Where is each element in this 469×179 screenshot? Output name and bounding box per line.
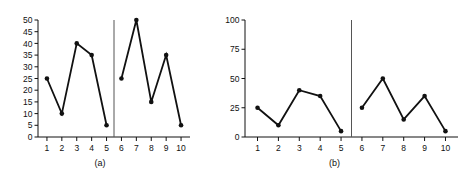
x-tick-label-b-5: 5 [339, 143, 344, 153]
x-tick-label-b-8: 8 [401, 143, 406, 153]
data-point-a-x1 [45, 76, 50, 81]
series-line-b-segment-2 [362, 79, 446, 132]
figure-container: 0510152025303540455012345678910 (a) 0255… [0, 0, 469, 179]
data-point-b-x10 [443, 129, 448, 134]
x-tick-label-b-10: 10 [441, 143, 451, 153]
x-tick-label-b-7: 7 [380, 143, 385, 153]
y-tick-label-a-50: 50 [23, 15, 33, 25]
x-tick-label-a-9: 9 [164, 143, 169, 153]
y-tick-label-a-5: 5 [28, 120, 33, 130]
data-point-b-x6 [360, 105, 365, 110]
x-tick-label-a-3: 3 [74, 143, 79, 153]
y-tick-label-b-25: 25 [230, 103, 240, 113]
data-point-a-x8 [149, 100, 154, 105]
x-tick-label-b-4: 4 [318, 143, 323, 153]
y-tick-label-b-100: 100 [225, 15, 239, 25]
panel-caption-a: (a) [0, 158, 200, 168]
x-tick-label-a-1: 1 [45, 143, 50, 153]
y-tick-label-a-20: 20 [23, 85, 33, 95]
y-tick-label-b-0: 0 [235, 132, 240, 142]
x-tick-label-b-1: 1 [255, 143, 260, 153]
x-tick-label-a-5: 5 [104, 143, 109, 153]
x-tick-label-a-4: 4 [89, 143, 94, 153]
x-tick-label-a-7: 7 [134, 143, 139, 153]
data-point-b-x7 [381, 76, 386, 81]
data-point-a-x7 [134, 18, 139, 23]
y-tick-label-a-30: 30 [23, 62, 33, 72]
data-point-b-x2 [276, 123, 281, 128]
data-point-b-x9 [422, 94, 427, 99]
chart-panel-a: 0510152025303540455012345678910 (a) [0, 0, 200, 179]
x-tick-label-a-10: 10 [176, 143, 186, 153]
y-tick-label-b-50: 50 [230, 74, 240, 84]
y-tick-label-a-15: 15 [23, 97, 33, 107]
x-tick-label-b-3: 3 [297, 143, 302, 153]
data-point-b-x5 [339, 129, 344, 134]
x-tick-label-b-2: 2 [276, 143, 281, 153]
x-tick-label-b-9: 9 [422, 143, 427, 153]
data-point-b-x1 [255, 105, 260, 110]
y-tick-label-a-45: 45 [23, 27, 33, 37]
y-tick-label-a-10: 10 [23, 109, 33, 119]
series-line-a-segment-2 [121, 20, 181, 125]
data-point-a-x4 [89, 53, 94, 58]
data-point-a-x2 [60, 111, 65, 116]
data-point-b-x4 [318, 94, 323, 99]
x-tick-label-a-6: 6 [119, 143, 124, 153]
data-point-a-x10 [179, 123, 184, 128]
y-tick-label-a-35: 35 [23, 50, 33, 60]
x-tick-label-b-6: 6 [360, 143, 365, 153]
y-tick-label-a-40: 40 [23, 39, 33, 49]
line-chart-a: 0510152025303540455012345678910 [0, 0, 200, 158]
data-point-a-x3 [74, 41, 79, 46]
data-point-b-x3 [297, 88, 302, 93]
line-chart-b: 025507510012345678910 [200, 0, 469, 158]
x-tick-label-a-2: 2 [59, 143, 64, 153]
y-tick-label-a-0: 0 [28, 132, 33, 142]
y-tick-label-a-25: 25 [23, 74, 33, 84]
data-point-a-x9 [164, 53, 169, 58]
panel-caption-b: (b) [200, 158, 469, 168]
chart-panel-b: 025507510012345678910 (b) [200, 0, 469, 179]
data-point-a-x6 [119, 76, 124, 81]
y-tick-label-b-75: 75 [230, 44, 240, 54]
series-line-a-segment-1 [47, 43, 107, 125]
x-tick-label-a-8: 8 [149, 143, 154, 153]
series-line-b-segment-1 [258, 90, 342, 131]
data-point-b-x8 [401, 117, 406, 122]
data-point-a-x5 [104, 123, 109, 128]
